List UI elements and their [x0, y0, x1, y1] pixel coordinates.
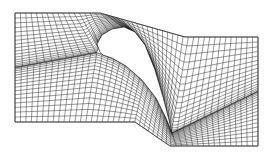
turbine-blade-profile	[97, 27, 172, 133]
mesh-line-pitchwise	[91, 54, 102, 122]
mesh-figure	[0, 0, 269, 155]
mesh-line-pitchwise	[217, 37, 226, 111]
mesh-line-streamwise	[15, 122, 258, 146]
mesh-line-pitchwise	[183, 128, 187, 146]
mesh-line-pitchwise	[204, 37, 215, 118]
mesh-line-pitchwise	[211, 37, 221, 114]
mesh-grid-lines	[15, 13, 258, 146]
mesh-line-pitchwise	[157, 109, 161, 137]
mesh-line-pitchwise	[108, 62, 120, 122]
mesh-line-pitchwise	[47, 13, 59, 59]
mesh-line-pitchwise	[69, 13, 89, 54]
mesh-line-streamwise	[15, 116, 258, 145]
mesh-line-pitchwise	[113, 66, 125, 123]
mesh-line-pitchwise	[53, 13, 67, 58]
bottom-boundary	[15, 122, 258, 146]
mesh-line-pitchwise	[102, 59, 114, 122]
mesh-line-pitchwise	[224, 37, 231, 108]
mesh-line-streamwise	[15, 87, 258, 139]
mesh-line-pitchwise	[247, 97, 248, 146]
mesh-line-pitchwise	[118, 70, 130, 123]
